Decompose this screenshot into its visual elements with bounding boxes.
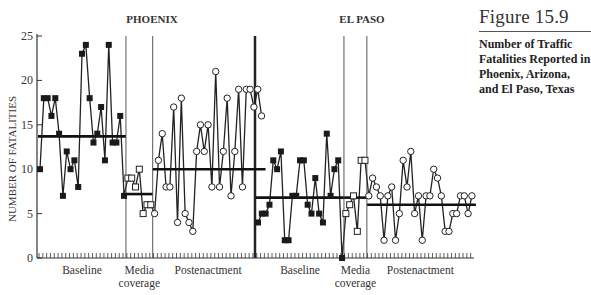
marker-open-circle bbox=[174, 219, 180, 225]
marker-open-circle bbox=[392, 237, 398, 243]
marker-filled-square bbox=[102, 157, 108, 163]
marker-open-circle bbox=[369, 175, 375, 181]
marker-open-circle bbox=[213, 68, 219, 74]
marker-open-circle bbox=[171, 104, 177, 110]
marker-open-circle bbox=[151, 210, 157, 216]
marker-filled-square bbox=[75, 184, 81, 190]
marker-open-circle bbox=[411, 210, 417, 216]
figure-description: Number of Traffic Fatalities Reported in… bbox=[479, 37, 591, 97]
marker-filled-square bbox=[274, 166, 280, 172]
marker-filled-square bbox=[117, 113, 123, 119]
marker-open-circle bbox=[201, 148, 207, 154]
phase-label: Postenactment bbox=[175, 264, 243, 276]
marker-filled-square bbox=[335, 157, 341, 163]
y-tick-label: 0 bbox=[27, 251, 33, 265]
marker-filled-square bbox=[331, 166, 337, 172]
marker-filled-square bbox=[94, 131, 100, 137]
marker-open-circle bbox=[167, 184, 173, 190]
marker-open-circle bbox=[389, 184, 395, 190]
marker-open-circle bbox=[235, 86, 241, 92]
panel-title: EL PASO bbox=[339, 13, 385, 25]
marker-open-circle bbox=[239, 184, 245, 190]
marker-open-circle bbox=[255, 86, 261, 92]
marker-open-circle bbox=[469, 193, 475, 199]
marker-filled-square bbox=[255, 219, 261, 225]
marker-open-circle bbox=[385, 193, 391, 199]
marker-open-circle bbox=[373, 184, 379, 190]
marker-open-circle bbox=[193, 148, 199, 154]
figure-label: Figure 15.9 bbox=[479, 6, 591, 32]
marker-filled-square bbox=[316, 211, 322, 217]
marker-open-circle bbox=[228, 193, 234, 199]
y-tick-label: 15 bbox=[21, 118, 33, 132]
marker-open-circle bbox=[381, 237, 387, 243]
phase-label: Media bbox=[341, 264, 370, 276]
marker-open-circle bbox=[438, 193, 444, 199]
y-tick-label: 5 bbox=[27, 207, 33, 221]
marker-open-circle bbox=[186, 219, 192, 225]
marker-filled-square bbox=[305, 202, 311, 208]
marker-open-circle bbox=[431, 166, 437, 172]
phase-label: Baseline bbox=[280, 264, 320, 276]
marker-filled-square bbox=[121, 193, 127, 199]
marker-open-square bbox=[347, 202, 353, 208]
marker-filled-square bbox=[83, 42, 89, 48]
marker-open-circle bbox=[461, 193, 467, 199]
marker-filled-square bbox=[308, 211, 314, 217]
marker-open-circle bbox=[197, 122, 203, 128]
marker-filled-square bbox=[324, 131, 330, 137]
phase-label: coverage bbox=[119, 277, 161, 290]
marker-open-circle bbox=[408, 148, 414, 154]
marker-open-square bbox=[362, 157, 368, 163]
marker-open-circle bbox=[396, 210, 402, 216]
marker-filled-square bbox=[87, 95, 93, 101]
marker-open-circle bbox=[205, 122, 211, 128]
marker-filled-square bbox=[278, 148, 284, 154]
marker-filled-square bbox=[68, 166, 74, 172]
phase-label: Postenactment bbox=[387, 264, 455, 276]
marker-open-square bbox=[354, 228, 360, 234]
marker-filled-square bbox=[45, 95, 51, 101]
marker-filled-square bbox=[60, 193, 66, 199]
marker-open-square bbox=[140, 211, 146, 217]
marker-filled-square bbox=[312, 175, 318, 181]
phase-label: Media bbox=[125, 264, 154, 276]
marker-filled-square bbox=[270, 157, 276, 163]
phase-label: coverage bbox=[335, 277, 377, 290]
marker-open-circle bbox=[427, 193, 433, 199]
marker-open-circle bbox=[465, 210, 471, 216]
marker-filled-square bbox=[56, 131, 62, 137]
marker-filled-square bbox=[52, 95, 58, 101]
marker-open-circle bbox=[434, 175, 440, 181]
marker-open-square bbox=[343, 211, 349, 217]
marker-open-circle bbox=[377, 193, 383, 199]
marker-open-circle bbox=[209, 184, 215, 190]
figure-caption: Figure 15.9 Number of Traffic Fatalities… bbox=[479, 6, 591, 97]
marker-open-circle bbox=[453, 210, 459, 216]
marker-open-circle bbox=[190, 228, 196, 234]
marker-open-square bbox=[136, 166, 142, 172]
marker-open-circle bbox=[220, 148, 226, 154]
marker-open-circle bbox=[258, 113, 264, 119]
y-axis-label: NUMBER OF FATALITIES bbox=[6, 96, 18, 222]
marker-filled-square bbox=[286, 237, 292, 243]
marker-filled-square bbox=[266, 202, 272, 208]
marker-open-circle bbox=[159, 130, 165, 136]
marker-filled-square bbox=[79, 51, 85, 57]
marker-open-square bbox=[351, 193, 357, 199]
marker-open-circle bbox=[182, 210, 188, 216]
marker-filled-square bbox=[339, 255, 345, 261]
marker-open-circle bbox=[155, 157, 161, 163]
marker-filled-square bbox=[293, 193, 299, 199]
marker-open-circle bbox=[224, 95, 230, 101]
marker-filled-square bbox=[106, 42, 112, 48]
marker-filled-square bbox=[320, 219, 326, 225]
marker-open-square bbox=[148, 202, 154, 208]
marker-filled-square bbox=[71, 157, 77, 163]
marker-filled-square bbox=[48, 113, 54, 119]
y-tick-label: 10 bbox=[21, 162, 33, 176]
marker-open-circle bbox=[446, 228, 452, 234]
marker-filled-square bbox=[301, 157, 307, 163]
marker-filled-square bbox=[98, 104, 104, 110]
marker-open-circle bbox=[216, 184, 222, 190]
